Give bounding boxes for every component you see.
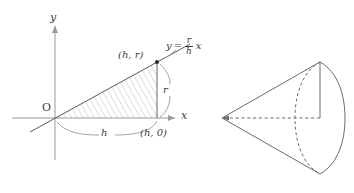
figure-svg xyxy=(0,0,354,193)
y-axis-arrowhead xyxy=(52,26,58,33)
equation-label: y = r h x xyxy=(166,36,201,56)
base-brace-left xyxy=(57,122,99,135)
figure-container: y x O (h, r) (h, 0) h r y = r h x xyxy=(0,0,354,193)
point-label-h-0: (h, 0) xyxy=(140,128,167,138)
equation-equals: = xyxy=(174,41,182,51)
x-axis-arrowhead xyxy=(168,115,175,121)
equation-fraction: r h xyxy=(185,36,193,56)
equation-variable: x xyxy=(196,41,202,51)
cone-slant-upper xyxy=(222,62,320,118)
vertex-point-h-r xyxy=(155,60,159,64)
height-brace-upper xyxy=(160,64,170,84)
cone-slant-lower xyxy=(222,118,320,174)
x-axis-label: x xyxy=(181,110,187,121)
base-dimension-label-h: h xyxy=(101,128,107,138)
height-dimension-label-r: r xyxy=(163,85,168,95)
y-axis-label: y xyxy=(50,12,56,23)
origin-label: O xyxy=(42,102,51,113)
height-brace-lower xyxy=(160,96,170,117)
equation-denominator: h xyxy=(185,47,193,57)
right-diagram-group xyxy=(222,62,345,174)
equation-numerator: r xyxy=(186,36,192,46)
equation-lhs: y xyxy=(166,41,172,51)
cone-base-front-arc xyxy=(320,62,345,174)
point-label-h-r: (h, r) xyxy=(118,50,143,60)
